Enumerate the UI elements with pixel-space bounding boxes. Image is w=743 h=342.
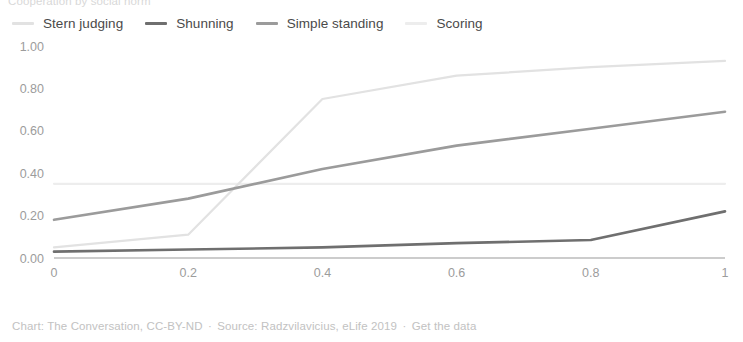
chart-footer: Chart: The Conversation, CC-BY-ND · Sour… <box>12 320 476 332</box>
legend-swatch-icon <box>145 22 167 25</box>
x-axis-tick-label: 1 <box>722 266 729 280</box>
x-axis-tick-label: 0.4 <box>314 266 331 280</box>
legend-label: Scoring <box>436 16 482 31</box>
x-axis-tick-label: 0.6 <box>448 266 465 280</box>
y-axis-tick-label: 0.00 <box>20 252 44 266</box>
legend-swatch-icon <box>405 22 427 25</box>
legend-item-scoring[interactable]: Scoring <box>405 16 482 31</box>
series-line-simple-standing <box>54 112 725 220</box>
x-axis-tick-label: 0 <box>51 266 58 280</box>
footer-separator-2: · <box>400 320 408 332</box>
legend-label: Simple standing <box>287 16 384 31</box>
footer-separator-1: · <box>206 320 214 332</box>
plot-area: 0.000.200.400.600.801.0000.20.40.60.81 <box>0 36 743 294</box>
footer-source: Source: Radzvilavicius, eLife 2019 <box>217 320 397 332</box>
chart-legend: Stern judging Shunning Simple standing S… <box>12 14 505 32</box>
y-axis-tick-label: 0.40 <box>20 167 44 181</box>
series-line-shunning <box>54 211 725 251</box>
line-chart-svg: 0.000.200.400.600.801.0000.20.40.60.81 <box>0 36 743 294</box>
chart-container: Cooperation by social norm Stern judging… <box>0 0 743 342</box>
y-axis-tick-label: 0.80 <box>20 82 44 96</box>
chart-title-clipped: Cooperation by social norm <box>8 0 151 7</box>
legend-label: Shunning <box>176 16 233 31</box>
legend-item-simple-standing[interactable]: Simple standing <box>256 16 384 31</box>
legend-label: Stern judging <box>43 16 123 31</box>
y-axis-tick-label: 0.20 <box>20 209 44 223</box>
y-axis-tick-label: 0.60 <box>20 124 44 138</box>
legend-swatch-icon <box>12 22 34 25</box>
legend-swatch-icon <box>256 22 278 25</box>
legend-item-shunning[interactable]: Shunning <box>145 16 233 31</box>
footer-get-data-link[interactable]: Get the data <box>412 320 477 332</box>
legend-item-stern-judging[interactable]: Stern judging <box>12 16 123 31</box>
x-axis-tick-label: 0.8 <box>582 266 599 280</box>
y-axis-tick-label: 1.00 <box>20 40 44 54</box>
series-line-stern-judging <box>54 61 725 248</box>
x-axis-tick-label: 0.2 <box>180 266 197 280</box>
footer-chart-credit: Chart: The Conversation, CC-BY-ND <box>12 320 203 332</box>
